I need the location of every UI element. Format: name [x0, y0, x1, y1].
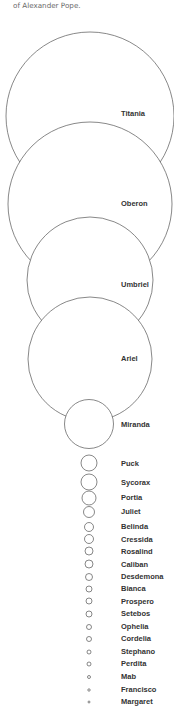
moon-circle [86, 598, 92, 604]
moon-circle [81, 455, 97, 471]
moon-size-chart: TitaniaOberonUmbrielArielMirandaPuckSyco… [0, 0, 174, 707]
moon-label: Mab [121, 672, 136, 681]
moon-circle [85, 547, 93, 555]
moon-mab: Mab [88, 672, 137, 681]
moon-circle [84, 507, 95, 518]
moon-label: Cressida [121, 535, 154, 544]
moon-bianca: Bianca [86, 584, 146, 593]
moon-circle [88, 676, 91, 679]
moon-cressida: Cressida [85, 535, 154, 545]
moon-label: Prospero [121, 597, 154, 606]
moon-label: Juliet [121, 507, 141, 516]
moon-label: Desdemona [121, 572, 164, 581]
moon-setebos: Setebos [86, 609, 150, 618]
moon-label: Cordelia [121, 634, 152, 643]
moon-caliban: Caliban [85, 560, 149, 569]
moon-circle [87, 637, 92, 642]
moon-cordelia: Cordelia [87, 634, 152, 643]
moon-rosalind: Rosalind [85, 547, 153, 556]
moon-label: Francisco [121, 685, 157, 694]
moon-prospero: Prospero [86, 597, 154, 606]
moon-circle [87, 625, 92, 630]
moon-label: Rosalind [121, 547, 153, 556]
moon-circle [86, 574, 93, 581]
moon-label: Caliban [121, 560, 149, 569]
moon-label: Margaret [121, 697, 153, 706]
moon-circle [85, 523, 94, 532]
moon-desdemona: Desdemona [86, 572, 165, 581]
moon-portia: Portia [82, 491, 143, 505]
moon-label: Belinda [121, 522, 149, 531]
moon-circle [82, 491, 96, 505]
moon-label: Puck [121, 459, 140, 468]
moon-label: Portia [121, 493, 143, 502]
moon-circle [87, 662, 91, 666]
moon-label: Umbriel [121, 280, 149, 289]
moon-label: Sycorax [121, 478, 151, 487]
moon-circle [85, 560, 93, 568]
moon-circle [85, 535, 94, 544]
moon-circle [81, 474, 97, 490]
moon-circle [86, 586, 92, 592]
moon-circle [88, 701, 90, 703]
moon-francisco: Francisco [88, 685, 157, 694]
moon-circle [88, 689, 90, 691]
moon-label: Setebos [121, 609, 150, 618]
moon-sycorax: Sycorax [81, 474, 151, 490]
moon-circle [86, 611, 92, 617]
moon-label: Bianca [121, 584, 146, 593]
moon-puck: Puck [81, 455, 140, 471]
moon-belinda: Belinda [85, 522, 149, 532]
moon-juliet: Juliet [84, 507, 142, 518]
moon-circle [87, 650, 91, 654]
moon-label: Titania [121, 109, 146, 118]
moon-label: Stephano [121, 647, 156, 656]
moon-perdita: Perdita [87, 659, 147, 668]
moon-ophelia: Ophelia [87, 622, 150, 631]
moon-label: Perdita [121, 659, 147, 668]
moon-label: Ariel [121, 354, 138, 363]
moon-label: Miranda [121, 420, 151, 429]
moon-stephano: Stephano [87, 647, 156, 656]
moon-label: Ophelia [121, 622, 149, 631]
moon-label: Oberon [121, 199, 148, 208]
moon-circle [65, 400, 114, 449]
moon-margaret: Margaret [88, 697, 153, 706]
